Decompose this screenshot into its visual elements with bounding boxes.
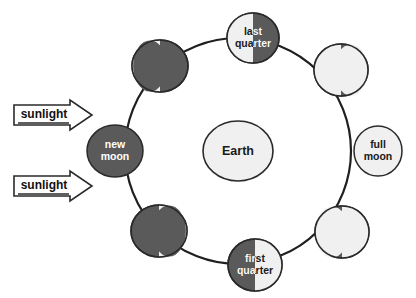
moon-first-quarter[interactable]: firstfirstquarterquarter (228, 239, 282, 291)
moon-terminator (133, 40, 167, 91)
moon-waning-gibbous[interactable] (314, 44, 368, 96)
moon-waxing-gibbous[interactable] (315, 206, 369, 258)
moon-phases-diagram: Earth lastlastquarterquarterfullmoonfirs… (0, 0, 416, 298)
moon-terminator (152, 205, 186, 256)
moon-waxing-crescent[interactable] (131, 205, 187, 257)
sunlight-arrow: sunlight (14, 171, 92, 201)
moon-label-line: moon (364, 150, 393, 162)
diagram-canvas: Earth lastlastquarterquarterfullmoonfirs… (0, 0, 416, 298)
sunlight-arrow: sunlight (14, 100, 92, 130)
sunlight-arrows-layer: sunlightsunlight (14, 100, 92, 201)
moon-last-quarter[interactable]: lastlastquarterquarter (227, 13, 279, 63)
moon-terminator (334, 44, 367, 95)
sunlight-label: sunlight (21, 107, 68, 121)
moon-label-line: new (105, 138, 126, 150)
sunlight-label: sunlight (21, 178, 68, 192)
moon-label-line: full (370, 138, 386, 150)
moon-waning-crescent[interactable] (132, 40, 188, 92)
moon-full-moon[interactable]: fullmoon (354, 126, 402, 176)
moon-new-moon[interactable]: newmoon (87, 125, 143, 177)
earth-label: Earth (222, 144, 254, 158)
earth-body: Earth (203, 121, 273, 181)
moon-label-line: moon (101, 150, 130, 162)
moon-terminator (315, 206, 348, 257)
